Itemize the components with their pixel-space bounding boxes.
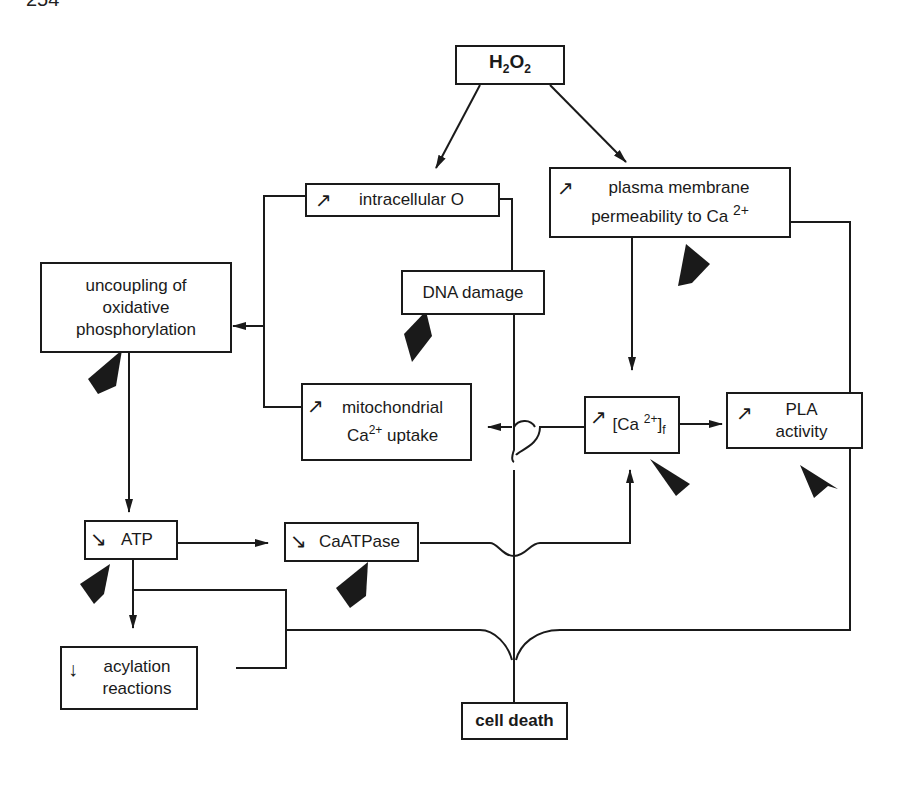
diagram-canvas: 254: [0, 0, 904, 789]
node-dna-damage: DNA damage: [401, 270, 545, 315]
arrow-up-icon: ↗: [307, 395, 324, 417]
node-uncoupling: uncoupling of oxidative phosphorylation: [40, 262, 232, 353]
node-h2o2: H2O2: [455, 45, 565, 85]
arrow-up-icon: ↗: [736, 402, 753, 424]
arrow-down-icon: ↘: [90, 528, 107, 550]
node-intracellular-o: ↗ intracellular O: [305, 183, 500, 217]
arrow-up-icon: ↗: [315, 189, 332, 211]
arrow-up-icon: ↗: [557, 177, 574, 199]
node-pla: ↗ PLA activity: [726, 392, 863, 449]
arrow-down-icon: ↓: [68, 658, 78, 680]
node-cell-death: cell death: [461, 702, 568, 740]
node-mito-uptake: ↗ mitochondrial Ca2+ uptake: [301, 383, 472, 461]
node-caatpase: ↘ CaATPase: [284, 522, 419, 562]
arrow-up-icon: ↗: [590, 406, 607, 428]
node-acylation: ↓ acylation reactions: [60, 646, 198, 710]
arrow-down-icon: ↘: [290, 530, 307, 552]
node-ca-free: ↗ [Ca 2+]f: [584, 396, 680, 454]
node-atp: ↘ ATP: [84, 520, 178, 560]
node-plasma-membrane: ↗ plasma membrane permeability to Ca 2+: [549, 167, 791, 238]
